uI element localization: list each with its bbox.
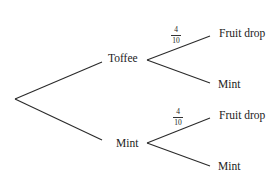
probability-toffee-fruit-drop: 4 10: [171, 26, 181, 44]
fraction-denominator: 10: [172, 36, 180, 45]
branch-root-to-toffee: [15, 62, 102, 99]
node-toffee: Toffee: [108, 53, 138, 65]
node-mint: Mint: [116, 138, 138, 150]
branch-toffee-to-mint: [147, 60, 210, 83]
fraction-numerator: 4: [174, 26, 178, 35]
fraction-numerator: 4: [176, 108, 180, 117]
branch-root-to-mint: [15, 99, 102, 140]
leaf-toffee-mint: Mint: [218, 79, 240, 91]
branch-mint-to-mint: [147, 143, 210, 166]
leaf-mint-fruit-drop: Fruit drop: [219, 110, 265, 122]
fraction-denominator: 10: [174, 118, 182, 127]
leaf-mint-mint: Mint: [218, 161, 240, 173]
leaf-toffee-fruit-drop: Fruit drop: [219, 28, 265, 40]
probability-mint-fruit-drop: 4 10: [173, 108, 183, 126]
